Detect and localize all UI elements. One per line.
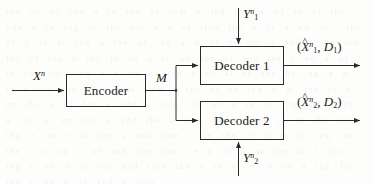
hat-accent-icon: ^: [302, 91, 307, 102]
block-decoder-1[interactable]: Decoder 1: [200, 46, 284, 85]
label-output-2-close: ): [337, 94, 341, 109]
label-message: M: [156, 70, 167, 86]
block-encoder[interactable]: Encoder: [66, 74, 146, 107]
label-output-1-distortion: D: [324, 39, 333, 54]
diagram-canvas: the on of ion a re the of orm n ing the …: [0, 0, 373, 184]
block-encoder-label: Encoder: [84, 83, 129, 99]
label-side-info-1-sub: 1: [254, 13, 258, 22]
label-output-1-hatgroup: ^X: [301, 39, 309, 55]
label-output-1: (^Xn1, D1): [297, 39, 342, 55]
block-decoder-1-label: Decoder 1: [214, 58, 270, 74]
label-output-2-distortion: D: [324, 94, 333, 109]
diagram-wires: [0, 0, 373, 184]
label-side-info-2-sub: 2: [254, 157, 258, 166]
label-output-2: (^Xn2, D2): [297, 94, 342, 110]
block-decoder-2[interactable]: Decoder 2: [200, 101, 284, 140]
label-source-input-sup: n: [41, 69, 45, 78]
block-decoder-2-label: Decoder 2: [214, 113, 270, 129]
label-message-base: M: [156, 70, 167, 85]
label-output-1-close: ): [337, 39, 341, 54]
label-side-info-2: Yn2: [243, 150, 258, 166]
hat-accent-icon: ^: [302, 36, 307, 47]
label-output-2-hatgroup: ^X: [301, 94, 309, 110]
label-source-input-base: X: [33, 68, 41, 83]
label-side-info-1: Yn1: [243, 6, 258, 22]
label-source-input: Xn: [33, 68, 45, 84]
